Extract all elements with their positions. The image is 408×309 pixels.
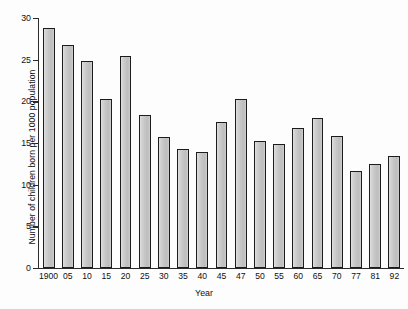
y-tick-label: 5 bbox=[26, 221, 31, 231]
bar-60 bbox=[292, 128, 304, 268]
bar-40 bbox=[196, 152, 208, 268]
bar-81 bbox=[369, 164, 381, 268]
x-axis-title: Year bbox=[0, 288, 408, 298]
y-tick-mark bbox=[33, 143, 39, 144]
bar-30 bbox=[158, 137, 170, 268]
x-tick-label-05: 05 bbox=[63, 271, 73, 281]
x-tick-label-10: 10 bbox=[82, 271, 92, 281]
x-tick-label-40: 40 bbox=[198, 271, 208, 281]
bar-65 bbox=[312, 118, 324, 268]
x-tick-label-1900: 1900 bbox=[39, 271, 58, 281]
y-tick-label: 15 bbox=[21, 138, 31, 148]
x-tick-label-92: 92 bbox=[390, 271, 400, 281]
y-tick-label: 10 bbox=[21, 180, 31, 190]
bar-77 bbox=[350, 171, 362, 269]
y-tick-mark bbox=[33, 101, 39, 102]
x-tick-label-60: 60 bbox=[294, 271, 304, 281]
bar-47 bbox=[235, 99, 247, 268]
y-axis-title: Number of children born per 1000 populat… bbox=[27, 32, 37, 282]
x-tick-label-25: 25 bbox=[140, 271, 150, 281]
bar-45 bbox=[216, 122, 228, 268]
x-tick-label-47: 47 bbox=[236, 271, 246, 281]
bar-chart-figure: Number of children born per 1000 populat… bbox=[0, 0, 408, 309]
x-tick-label-81: 81 bbox=[370, 271, 380, 281]
y-tick-mark bbox=[33, 60, 39, 61]
y-tick-label: 20 bbox=[21, 96, 31, 106]
y-tick-mark bbox=[33, 268, 39, 269]
y-tick-label: 0 bbox=[26, 263, 31, 273]
y-tick-label: 25 bbox=[21, 55, 31, 65]
y-tick-mark bbox=[33, 18, 39, 19]
x-tick-label-50: 50 bbox=[255, 271, 265, 281]
x-tick-label-55: 55 bbox=[274, 271, 284, 281]
x-tick-label-65: 65 bbox=[313, 271, 323, 281]
x-tick-label-30: 30 bbox=[159, 271, 169, 281]
bar-25 bbox=[139, 115, 151, 268]
y-tick-mark bbox=[33, 226, 39, 227]
bar-10 bbox=[81, 61, 93, 269]
bar-05 bbox=[62, 45, 74, 268]
bar-20 bbox=[120, 56, 132, 268]
x-tick-label-45: 45 bbox=[217, 271, 227, 281]
bar-70 bbox=[331, 136, 343, 269]
x-tick-label-70: 70 bbox=[332, 271, 342, 281]
x-axis-ticks: 1900051015202530354045475055606570778192 bbox=[39, 271, 404, 285]
bar-15 bbox=[100, 99, 112, 268]
bar-series bbox=[39, 18, 404, 268]
x-tick-label-77: 77 bbox=[351, 271, 361, 281]
bar-50 bbox=[254, 141, 266, 269]
x-tick-label-15: 15 bbox=[101, 271, 111, 281]
x-axis-line bbox=[38, 268, 404, 269]
y-tick-label: 30 bbox=[21, 13, 31, 23]
bar-1900 bbox=[43, 28, 55, 268]
plot-area: 051015202530 bbox=[38, 18, 404, 268]
x-tick-label-20: 20 bbox=[121, 271, 131, 281]
y-tick-mark bbox=[33, 185, 39, 186]
bar-35 bbox=[177, 149, 189, 268]
bar-92 bbox=[388, 156, 400, 268]
x-tick-label-35: 35 bbox=[178, 271, 188, 281]
bar-55 bbox=[273, 144, 285, 268]
